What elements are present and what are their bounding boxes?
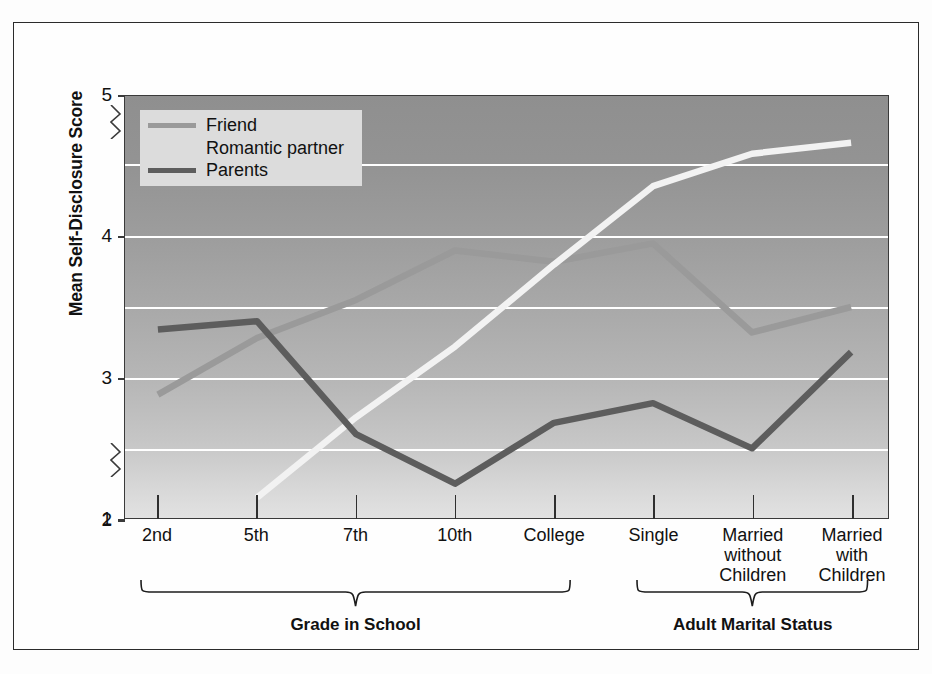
x-tick-mark — [157, 495, 159, 519]
legend-label-romantic-partner: Romantic partner — [206, 139, 344, 157]
x-tick-mark — [852, 495, 854, 519]
x-tick-mark — [554, 495, 556, 519]
x-tick-mark — [653, 495, 655, 519]
figure-container: Mean Self-Disclosure Score 12345 Friend … — [0, 0, 932, 674]
figure-frame: Mean Self-Disclosure Score 12345 Friend … — [13, 22, 919, 650]
legend-item-friend: Friend — [148, 114, 356, 137]
series-line-parents — [158, 321, 851, 484]
legend: Friend Romantic partner Parents — [140, 110, 362, 186]
legend-swatch-friend — [148, 123, 196, 128]
legend-swatch-parents — [148, 168, 196, 173]
legend-swatch-romantic-partner — [148, 145, 196, 150]
group-label: Adult Marital Status — [593, 615, 913, 635]
y-tick-label: 5 — [76, 85, 112, 104]
x-tick-label: MarriedwithChildren — [787, 525, 917, 585]
y-axis-title: Mean Self-Disclosure Score — [66, 74, 87, 334]
x-tick-mark — [356, 495, 358, 519]
y-tick-mark — [118, 520, 125, 522]
legend-item-parents: Parents — [148, 159, 356, 182]
legend-label-parents: Parents — [206, 161, 268, 179]
group-brace — [635, 579, 870, 609]
x-tick-mark — [455, 495, 457, 519]
y-tick-label: 4 — [76, 226, 112, 245]
x-tick-mark — [256, 495, 258, 519]
x-tick-mark — [753, 495, 755, 519]
group-label: Grade in School — [196, 615, 516, 635]
group-brace — [139, 579, 572, 609]
legend-item-romantic-partner: Romantic partner — [148, 137, 356, 160]
y-tick-label: 3 — [76, 368, 112, 387]
legend-label-friend: Friend — [206, 116, 257, 134]
series-line-friend — [158, 243, 851, 394]
series-line-romantic-partner — [257, 143, 851, 498]
